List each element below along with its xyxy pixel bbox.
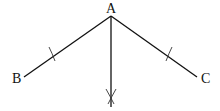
arc-intersection-right: [108, 89, 116, 104]
segment-ac: [111, 16, 197, 77]
point-label-a: A: [106, 2, 116, 16]
diagram-canvas: A B C: [0, 0, 220, 111]
segment-ab: [24, 16, 111, 77]
angle-bisector-figure: [0, 0, 220, 111]
point-label-c: C: [201, 72, 210, 86]
point-label-b: B: [12, 72, 21, 86]
arc-intersection-left: [106, 89, 114, 104]
